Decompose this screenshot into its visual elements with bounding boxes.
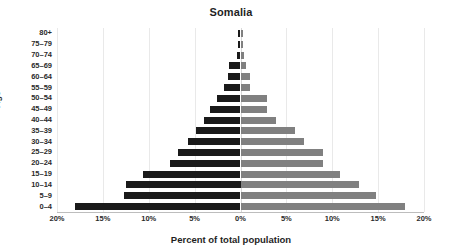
- age-label-70–74: 70–74: [31, 51, 52, 59]
- bar-male-5–9: [124, 192, 241, 199]
- bar-male-20–24: [170, 160, 241, 167]
- bar-male-30–34: [188, 138, 240, 145]
- chart-title: Somalia: [0, 6, 462, 18]
- pyramid-row: [57, 30, 424, 37]
- pyramid-row: [57, 84, 424, 91]
- x-tick-label-8: 20%: [416, 214, 431, 223]
- bar-female-65–69: [241, 62, 247, 69]
- plot-area: [57, 28, 424, 212]
- x-tick-label-1: 15%: [95, 214, 110, 223]
- age-label-15–19: 15–19: [31, 170, 52, 178]
- pyramid-row: [57, 95, 424, 102]
- bar-female-70–74: [241, 52, 245, 59]
- x-axis-line: [57, 212, 424, 213]
- bar-female-35–39: [241, 127, 295, 134]
- pyramid-row: [57, 149, 424, 156]
- age-label-45–49: 45–49: [31, 105, 52, 113]
- pyramid-row: [57, 171, 424, 178]
- age-label-10–14: 10–14: [31, 181, 52, 189]
- age-label-40–44: 40–44: [31, 116, 52, 124]
- bar-female-45–49: [241, 106, 268, 113]
- pyramid-row: [57, 62, 424, 69]
- pyramid-row: [57, 127, 424, 134]
- bar-female-25–29: [241, 149, 324, 156]
- bar-female-55–59: [241, 84, 250, 91]
- bar-male-35–39: [196, 127, 240, 134]
- bar-male-15–19: [143, 171, 240, 178]
- bar-male-60–64: [228, 73, 241, 80]
- pyramid-row: [57, 192, 424, 199]
- bar-male-50–54: [217, 95, 241, 102]
- y-axis-labels: 80+75–7970–7465–6960–6455–5950–5445–4940…: [0, 28, 57, 212]
- population-pyramid-chart: Somalia Age 80+75–7970–7465–6960–6455–59…: [0, 0, 462, 251]
- age-label-0–4: 0–4: [39, 203, 52, 211]
- age-label-55–59: 55–59: [31, 84, 52, 92]
- pyramid-row: [57, 41, 424, 48]
- bar-female-0–4: [241, 203, 405, 210]
- age-label-50–54: 50–54: [31, 94, 52, 102]
- x-tick-label-6: 10%: [325, 214, 340, 223]
- age-label-75–79: 75–79: [31, 40, 52, 48]
- age-label-60–64: 60–64: [31, 73, 52, 81]
- pyramid-row: [57, 160, 424, 167]
- x-tick-label-3: 5%: [189, 214, 200, 223]
- bar-male-10–14: [126, 181, 241, 188]
- pyramid-row: [57, 73, 424, 80]
- x-tick-label-4: 0%: [235, 214, 246, 223]
- age-label-30–34: 30–34: [31, 138, 52, 146]
- x-axis-labels: 20%15%10%5%0%5%10%15%20%: [0, 214, 462, 228]
- x-tick-label-5: 5%: [281, 214, 292, 223]
- x-axis-title: Percent of total population: [0, 234, 462, 245]
- bar-female-75–79: [241, 41, 244, 48]
- pyramid-row: [57, 203, 424, 210]
- bar-male-0–4: [75, 203, 240, 210]
- age-label-25–29: 25–29: [31, 148, 52, 156]
- bar-female-80+: [241, 30, 244, 37]
- age-label-65–69: 65–69: [31, 62, 52, 70]
- age-label-5–9: 5–9: [39, 192, 52, 200]
- pyramid-row: [57, 52, 424, 59]
- gridline-20: [424, 28, 425, 212]
- bar-male-55–59: [224, 84, 241, 91]
- x-tick-label-7: 15%: [371, 214, 386, 223]
- age-label-20–24: 20–24: [31, 159, 52, 167]
- x-tick-label-2: 10%: [141, 214, 156, 223]
- pyramid-row: [57, 106, 424, 113]
- bar-female-30–34: [241, 138, 304, 145]
- bar-male-65–69: [229, 62, 241, 69]
- bar-male-45–49: [210, 106, 240, 113]
- age-label-80+: 80+: [39, 29, 52, 37]
- age-label-35–39: 35–39: [31, 127, 52, 135]
- bar-female-20–24: [241, 160, 324, 167]
- bar-female-15–19: [241, 171, 340, 178]
- bar-female-40–44: [241, 117, 277, 124]
- bar-female-10–14: [241, 181, 359, 188]
- pyramid-row: [57, 138, 424, 145]
- x-tick-label-0: 20%: [49, 214, 64, 223]
- pyramid-row: [57, 181, 424, 188]
- bar-female-50–54: [241, 95, 268, 102]
- bar-female-5–9: [241, 192, 377, 199]
- bar-female-60–64: [241, 73, 250, 80]
- bar-male-25–29: [178, 149, 240, 156]
- bar-male-40–44: [204, 117, 241, 124]
- pyramid-row: [57, 117, 424, 124]
